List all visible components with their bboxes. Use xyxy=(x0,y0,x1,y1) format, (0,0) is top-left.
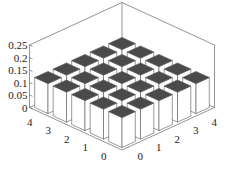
z-axis-ticks: 00.050.10.150.20.25 xyxy=(8,39,32,114)
z-tick-label: 0.1 xyxy=(14,77,28,89)
bar3d-chart: 00.050.10.150.20.25 01234 01234 xyxy=(0,0,245,175)
y-tick-label: 1 xyxy=(156,141,162,153)
z-tick-mark xyxy=(30,70,33,71)
z-tick-label: 0.05 xyxy=(8,89,28,101)
x-tick-label: 0 xyxy=(101,150,107,162)
y-tick-label: 2 xyxy=(175,133,181,145)
top-edge xyxy=(122,3,215,46)
z-tick-mark xyxy=(30,83,33,84)
z-tick-label: 0.25 xyxy=(8,39,28,51)
z-tick-mark xyxy=(30,45,33,46)
x-tick-label: 1 xyxy=(83,141,89,153)
x-tick-label: 4 xyxy=(27,116,33,128)
z-tick-label: 0 xyxy=(22,102,28,114)
x-tick-label: 2 xyxy=(64,133,70,145)
y-tick-label: 0 xyxy=(138,150,144,162)
bars xyxy=(35,37,210,147)
z-tick-label: 0.2 xyxy=(14,52,28,64)
z-tick-label: 0.15 xyxy=(8,64,28,76)
y-tick-label: 4 xyxy=(212,116,218,128)
top-edge xyxy=(30,3,123,46)
z-tick-mark xyxy=(30,108,33,109)
z-tick-mark xyxy=(30,58,33,59)
y-tick-label: 3 xyxy=(193,124,199,136)
x-tick-label: 3 xyxy=(46,124,52,136)
z-tick-mark xyxy=(30,95,33,96)
